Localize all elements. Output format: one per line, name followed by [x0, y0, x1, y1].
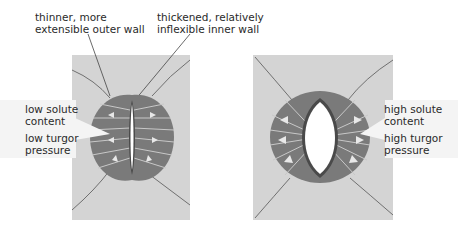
label-low-turgor: low turgor pressure — [25, 132, 79, 156]
label-outer-wall: thinner, more extensible outer wall — [35, 11, 145, 35]
guard-cells-closed — [90, 95, 174, 181]
label-high-turgor: high turgor pressure — [384, 132, 443, 156]
guard-cells-open — [270, 91, 370, 183]
label-high-solute: high solute content — [384, 103, 442, 127]
label-low-solute: low solute content — [25, 103, 78, 127]
label-inner-wall: thickened, relatively inflexible inner w… — [157, 11, 264, 35]
